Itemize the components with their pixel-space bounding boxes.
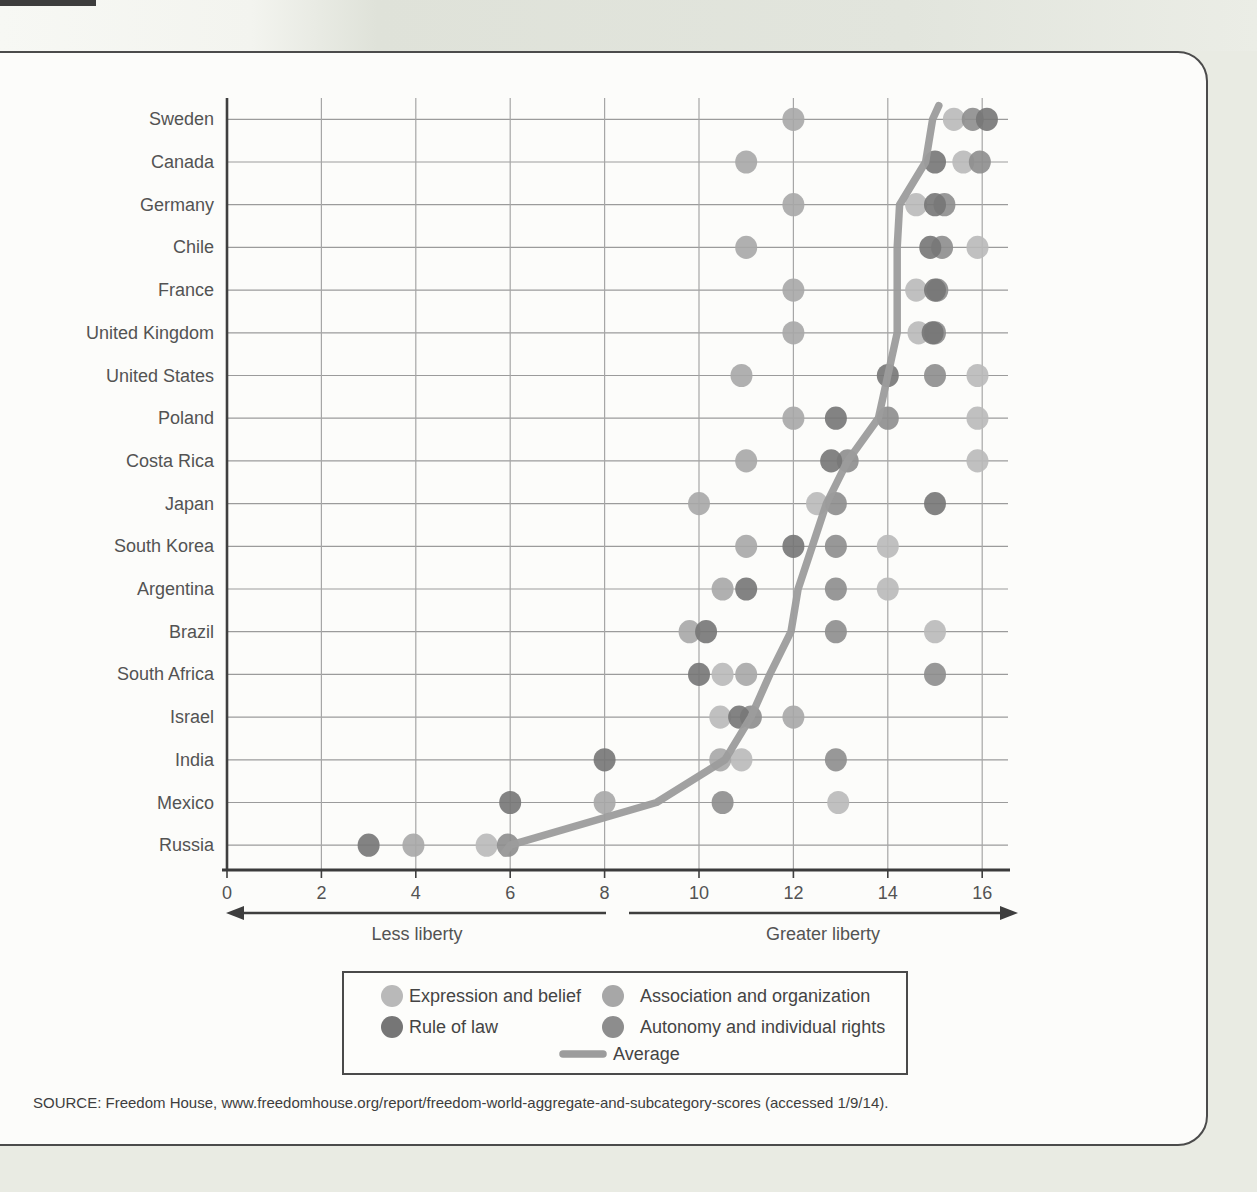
data-point-rule_of_law-poland [825, 407, 847, 430]
legend: Expression and belief Association and or… [343, 972, 907, 1074]
tick-label-16: 16 [972, 883, 992, 903]
data-point-association-united-kingdom [782, 321, 804, 344]
legend-swatch-expression-icon [381, 985, 403, 1007]
country-label-chile: Chile [173, 237, 214, 257]
data-point-association-sweden [782, 108, 804, 131]
data-point-rule_of_law-chile [919, 236, 941, 259]
data-point-rule_of_law-south-africa [688, 663, 710, 686]
data-point-rule_of_law-south-korea [782, 535, 804, 558]
country-label-canada: Canada [151, 152, 215, 172]
legend-label-expression: Expression and belief [409, 986, 582, 1006]
country-label-russia: Russia [159, 835, 215, 855]
country-label-south-korea: South Korea [114, 536, 215, 556]
data-point-association-france [782, 279, 804, 302]
data-point-expression-united-states [966, 364, 988, 387]
data-point-autonomy-mexico [712, 791, 734, 814]
legend-swatch-rule-of-law-icon [381, 1016, 403, 1038]
data-point-association-south-africa [735, 663, 757, 686]
legend-swatch-association-icon [602, 985, 624, 1007]
data-point-association-united-states [730, 364, 752, 387]
tick-label-14: 14 [878, 883, 898, 903]
data-point-autonomy-south-korea [825, 535, 847, 558]
data-point-rule_of_law-japan [924, 492, 946, 515]
average-line-layer [505, 106, 939, 853]
legend-label-association: Association and organization [640, 986, 870, 1006]
data-point-autonomy-canada [969, 150, 991, 173]
data-point-expression-chile [966, 236, 988, 259]
data-point-expression-brazil [924, 620, 946, 643]
data-point-association-costa-rica [735, 449, 757, 472]
right-arrowhead-icon [1000, 906, 1018, 920]
legend-label-autonomy: Autonomy and individual rights [640, 1017, 885, 1037]
legend-label-rule-of-law: Rule of law [409, 1017, 499, 1037]
liberty-dot-plot: SwedenCanadaGermanyChileFranceUnited Kin… [0, 0, 1257, 1192]
data-point-association-poland [782, 407, 804, 430]
data-point-association-argentina [712, 577, 734, 600]
data-point-autonomy-south-africa [924, 663, 946, 686]
tick-label-4: 4 [411, 883, 421, 903]
country-label-brazil: Brazil [169, 622, 214, 642]
data-point-expression-france [905, 279, 927, 302]
country-label-india: India [175, 750, 215, 770]
data-point-autonomy-united-states [924, 364, 946, 387]
data-point-association-mexico [594, 791, 616, 814]
data-point-rule_of_law-india [594, 748, 616, 771]
data-point-expression-south-africa [712, 663, 734, 686]
data-point-association-russia [402, 834, 424, 857]
data-point-association-canada [735, 150, 757, 173]
data-point-rule_of_law-costa-rica [820, 449, 842, 472]
data-point-rule_of_law-argentina [735, 577, 757, 600]
tick-label-10: 10 [689, 883, 709, 903]
country-label-sweden: Sweden [149, 109, 214, 129]
data-point-rule_of_law-russia [358, 834, 380, 857]
data-point-autonomy-brazil [825, 620, 847, 643]
country-label-united-states: United States [106, 366, 214, 386]
legend-label-average: Average [613, 1044, 680, 1064]
country-label-israel: Israel [170, 707, 214, 727]
data-point-expression-russia [476, 834, 498, 857]
data-point-association-south-korea [735, 535, 757, 558]
data-point-autonomy-india [825, 748, 847, 771]
data-point-expression-poland [966, 407, 988, 430]
country-label-germany: Germany [140, 195, 214, 215]
legend-swatch-autonomy-icon [602, 1016, 624, 1038]
tick-label-2: 2 [316, 883, 326, 903]
data-point-association-germany [782, 193, 804, 216]
data-point-rule_of_law-germany [924, 193, 946, 216]
data-point-association-chile [735, 236, 757, 259]
greater-liberty-label: Greater liberty [766, 924, 880, 944]
data-point-rule_of_law-france [924, 279, 946, 302]
country-label-poland: Poland [158, 408, 214, 428]
country-label-costa-rica: Costa Rica [126, 451, 215, 471]
country-label-south-africa: South Africa [117, 664, 215, 684]
country-label-japan: Japan [165, 494, 214, 514]
axis-arrows: Less liberty Greater liberty [226, 906, 1018, 944]
data-point-expression-argentina [877, 577, 899, 600]
data-point-rule_of_law-united-kingdom [922, 321, 944, 344]
tick-label-12: 12 [783, 883, 803, 903]
data-point-association-israel [782, 706, 804, 729]
left-arrowhead-icon [226, 906, 244, 920]
data-point-expression-israel [709, 706, 731, 729]
axis-layer: SwedenCanadaGermanyChileFranceUnited Kin… [86, 109, 1010, 903]
data-point-expression-sweden [943, 108, 965, 131]
country-label-argentina: Argentina [137, 579, 215, 599]
grid-layer [226, 98, 1008, 870]
country-label-united-kingdom: United Kingdom [86, 323, 214, 343]
tick-label-0: 0 [222, 883, 232, 903]
data-point-expression-mexico [827, 791, 849, 814]
average-line [505, 106, 939, 853]
source-citation: SOURCE: Freedom House, www.freedomhouse.… [33, 1094, 888, 1111]
data-point-rule_of_law-mexico [499, 791, 521, 814]
data-point-expression-south-korea [877, 535, 899, 558]
data-point-rule_of_law-brazil [695, 620, 717, 643]
data-point-rule_of_law-sweden [976, 108, 998, 131]
country-label-mexico: Mexico [157, 793, 214, 813]
data-point-association-japan [688, 492, 710, 515]
country-label-france: France [158, 280, 214, 300]
data-point-expression-costa-rica [966, 449, 988, 472]
tick-label-6: 6 [505, 883, 515, 903]
less-liberty-label: Less liberty [371, 924, 462, 944]
data-point-autonomy-argentina [825, 577, 847, 600]
tick-label-8: 8 [600, 883, 610, 903]
